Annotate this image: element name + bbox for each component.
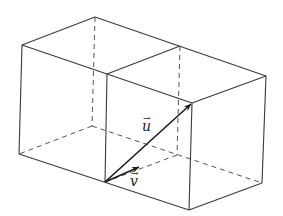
edge-front-middle-vertical	[105, 74, 107, 182]
hidden-edges	[19, 17, 262, 183]
hidden-edge-back-bottom-left	[19, 126, 92, 154]
hidden-edge-back-middle-vertical	[177, 46, 180, 155]
edge-front-left-vertical	[19, 45, 22, 154]
vector-arrow-accent-icon: →	[131, 169, 139, 178]
edge-top-middle-divider	[107, 46, 180, 74]
two-cubes-figure	[0, 0, 283, 216]
edge-bottom-front-long	[19, 154, 189, 210]
diagram-canvas: → u → v	[0, 0, 283, 216]
vector-u-label: → u	[142, 119, 151, 133]
vector-arrow-accent-icon: →	[143, 114, 151, 123]
edge-top-back-long	[95, 17, 266, 76]
edge-front-right-vertical	[189, 103, 192, 210]
edge-right-back-vertical	[262, 76, 266, 183]
edge-bottom-right	[189, 183, 262, 210]
edge-top-left-back	[22, 17, 95, 45]
edge-top-right	[192, 76, 266, 103]
vector-v-label: → v	[130, 174, 138, 188]
hidden-edge-back-left-vertical	[92, 17, 95, 126]
